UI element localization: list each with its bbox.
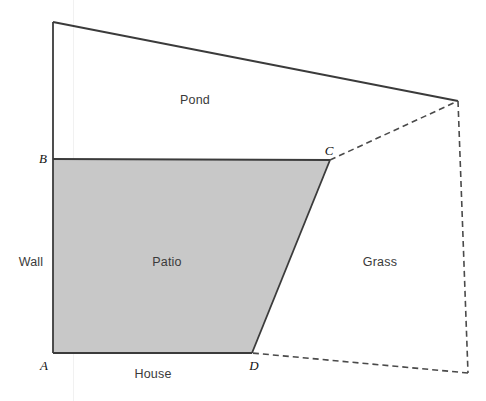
vertex-label-c: C (325, 143, 334, 159)
grass-lower-edge-dashed (252, 353, 468, 373)
grass-upper-edge-dashed (330, 101, 458, 160)
grass-right-edge-dashed (458, 101, 468, 373)
region-label-pond: Pond (180, 93, 210, 107)
diagram-geometry (0, 0, 486, 401)
pond-top-edge (53, 22, 458, 101)
region-label-house: House (134, 367, 171, 381)
vertex-label-d: D (249, 358, 258, 374)
garden-plan-diagram: Pond Wall Patio Grass House A B C D (0, 0, 486, 401)
region-label-patio: Patio (152, 255, 182, 269)
region-label-grass: Grass (363, 255, 397, 269)
patio-region-fill (53, 159, 330, 353)
vertex-label-b: B (39, 151, 47, 167)
patio-top-edge-BC (53, 159, 330, 160)
vertex-label-a: A (40, 358, 48, 374)
region-label-wall: Wall (19, 255, 44, 269)
